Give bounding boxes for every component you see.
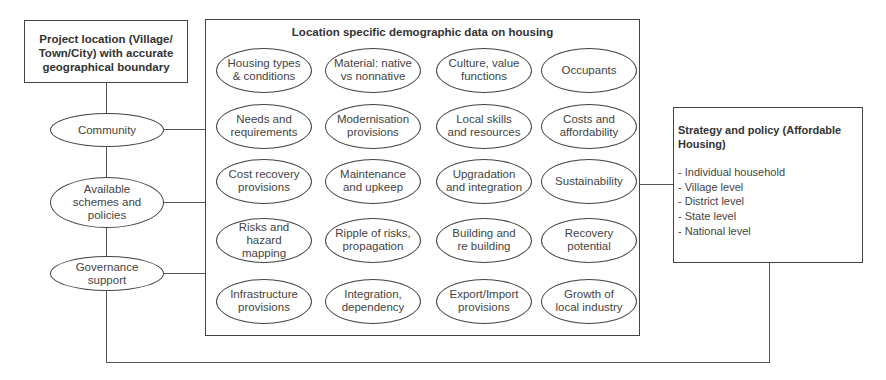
level-item: - State level <box>678 209 862 224</box>
level-item: - Village level <box>678 180 862 195</box>
connector-schemes-central <box>163 202 205 203</box>
connector-governance-bottom <box>106 290 107 363</box>
connector-bottom-loop <box>106 362 770 363</box>
connector-community-schemes <box>106 146 107 178</box>
level-item: - Individual household <box>678 165 862 180</box>
strategy-box-title: Strategy and policy (Affordable Housing) <box>678 123 862 151</box>
factor-node: Culture, value functions <box>436 48 532 93</box>
factor-node: Risks and hazard mapping <box>216 218 312 263</box>
central-box-title: Location specific demographic data on ho… <box>206 26 639 38</box>
factor-node: Integration, dependency <box>325 279 421 324</box>
factor-node: Recovery potential <box>541 218 637 263</box>
factor-node: Growth of local industry <box>541 279 637 324</box>
factor-node: Sustainability <box>541 159 637 204</box>
level-item: - District level <box>678 194 862 209</box>
node-community: Community <box>50 113 164 147</box>
node-governance-support: Governance support <box>50 256 164 291</box>
factor-node: Needs and requirements <box>216 104 312 149</box>
connector-schemes-governance <box>106 227 107 257</box>
connector-project-community <box>106 83 107 113</box>
level-item: - National level <box>678 224 862 239</box>
factor-node: Local skills and resources <box>436 104 532 149</box>
node-available-schemes: Available schemes and policies <box>50 177 164 228</box>
factor-node: Modernisation provisions <box>325 104 421 149</box>
factor-node: Export/Import provisions <box>436 279 532 324</box>
factor-node: Occupants <box>541 48 637 93</box>
factor-node: Material: native vs nonnative <box>325 48 421 93</box>
factor-node: Costs and affordability <box>541 104 637 149</box>
connector-governance-central <box>163 273 205 274</box>
strategy-policy-box: Strategy and policy (Affordable Housing)… <box>673 107 863 263</box>
factor-node: Building and re building <box>436 218 532 263</box>
connector-strategy-bottom <box>769 262 770 363</box>
factor-node: Maintenance and upkeep <box>325 159 421 204</box>
strategy-levels-list: - Individual household - Village level -… <box>678 165 862 239</box>
factor-node: Upgradation and integration <box>436 159 532 204</box>
factor-node: Housing types & conditions <box>216 48 312 93</box>
factor-node: Ripple of risks, propagation <box>325 218 421 263</box>
connector-community-central <box>163 129 205 130</box>
project-location-box: Project location (Village/ Town/City) wi… <box>24 20 188 83</box>
connector-central-strategy <box>639 184 673 185</box>
factor-node: Cost recovery provisions <box>216 159 312 204</box>
factor-node: Infrastructure provisions <box>216 279 312 324</box>
